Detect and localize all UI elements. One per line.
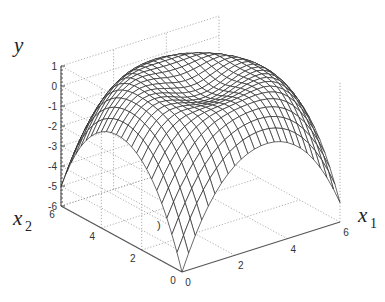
x2-tick-label: 4 [90, 231, 96, 242]
y-tick-label: -2 [48, 121, 57, 132]
surface-plot: 10-1-2-3-4-5-602460246 y x 2 x 1 ) [0, 0, 385, 302]
y-tick-label: -1 [48, 101, 57, 112]
x1-tick-label: 6 [343, 227, 349, 238]
x1-axis-title: x 1 [357, 203, 377, 231]
svg-text:2: 2 [25, 219, 32, 234]
mesh-cell [328, 171, 340, 203]
chart-root: 10-1-2-3-4-5-602460246 y x 2 x 1 ) [0, 0, 385, 302]
stray-glyph: ) [157, 219, 161, 231]
surface-mesh [61, 53, 340, 272]
x1-tick-label: 4 [291, 244, 297, 255]
svg-text:x: x [12, 206, 23, 230]
x1-tick-label: 0 [185, 277, 191, 288]
y-tick-label: 0 [51, 81, 57, 92]
y-tick-label: -4 [48, 161, 57, 172]
y-tick-label: 1 [51, 61, 57, 72]
y-tick-label: -3 [48, 141, 57, 152]
x2-axis-title: x 2 [12, 206, 32, 234]
y-tick-label: -5 [48, 181, 57, 192]
x1-tick-label: 2 [238, 260, 244, 271]
x2-tick-label: 2 [130, 253, 136, 264]
x2-tick-label: 0 [170, 275, 176, 286]
svg-text:x: x [357, 203, 368, 227]
x2-tick-label: 6 [49, 209, 55, 220]
y-axis-title: y [12, 33, 24, 57]
svg-text:1: 1 [370, 216, 377, 231]
